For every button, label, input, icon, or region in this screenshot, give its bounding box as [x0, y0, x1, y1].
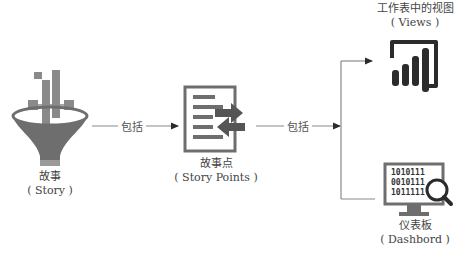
edge-label-points-to-views: 包括	[284, 118, 312, 134]
story-points-title: 故事点	[166, 157, 266, 171]
dashboard-node: 1010111 0010111 1011111	[383, 162, 455, 222]
story-points-node	[183, 85, 249, 155]
story-label: 故事 ( Story )	[8, 170, 92, 198]
document-arrows-icon	[183, 85, 249, 155]
views-label: 工作表中的视图 ( Views )	[365, 2, 465, 30]
story-points-subtitle: ( Story Points )	[166, 171, 266, 185]
story-title: 故事	[8, 170, 92, 184]
screen-line: 1011111	[391, 188, 425, 198]
story-subtitle: ( Story )	[8, 184, 92, 198]
dashboard-title: 仪表板	[365, 219, 465, 233]
dashboard-subtitle: ( Dashbord )	[365, 233, 465, 247]
dashboard-label: 仪表板 ( Dashbord )	[365, 219, 465, 247]
views-node	[388, 36, 444, 94]
screen-line: 1010111	[391, 168, 425, 178]
story-node	[8, 60, 92, 175]
dashboard-screen-text: 1010111 0010111 1011111	[391, 168, 425, 198]
views-title: 工作表中的视图	[365, 2, 465, 16]
funnel-chart-icon	[8, 60, 92, 170]
bar-chart-icon	[388, 36, 444, 94]
edge-label-story-to-points: 包括	[118, 118, 146, 134]
views-subtitle: ( Views )	[365, 16, 465, 30]
story-points-label: 故事点 ( Story Points )	[166, 157, 266, 185]
screen-line: 0010111	[391, 178, 425, 188]
